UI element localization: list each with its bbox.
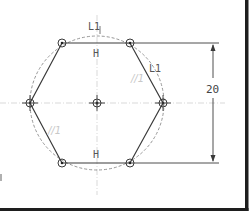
frame-border-bottom	[0, 208, 249, 211]
sketch-canvas[interactable]: 20 L1 H H L1 //1 //1	[0, 0, 251, 212]
constraint-label-tangent-right[interactable]: L1	[149, 63, 161, 74]
constraint-label-parallel-right[interactable]: //1	[130, 73, 144, 84]
constraint-label-horizontal-top[interactable]: H	[93, 48, 99, 59]
vertex-marker-right[interactable]	[155, 95, 171, 111]
dimension-value[interactable]: 20	[206, 83, 219, 96]
arrow-down-icon	[211, 155, 216, 162]
vertex-marker-left[interactable]	[22, 95, 38, 111]
constraint-label-horizontal-bottom[interactable]: H	[93, 149, 99, 160]
constraint-label-tangent-top[interactable]: L1	[88, 21, 100, 32]
arrow-up-icon	[211, 44, 216, 51]
center-point-marker[interactable]	[89, 95, 105, 111]
constraint-label-parallel-left[interactable]: //1	[47, 125, 61, 136]
frame-border-right	[245, 0, 249, 211]
edge-mark	[0, 174, 2, 181]
